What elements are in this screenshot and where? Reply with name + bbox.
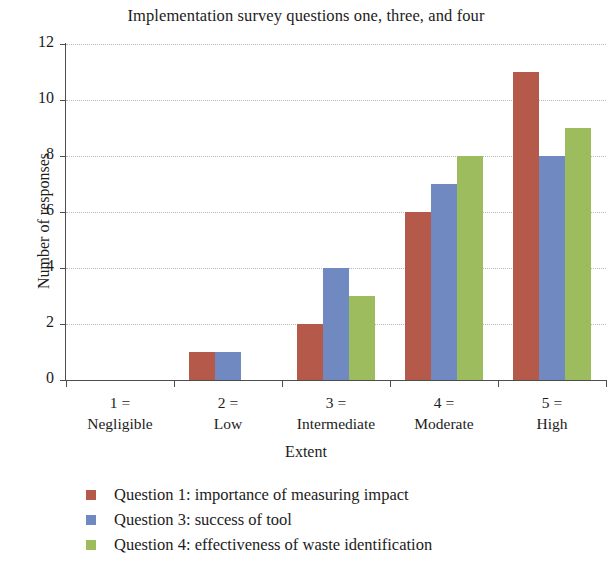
bar <box>457 156 483 380</box>
chart-legend: Question 1: importance of measuring impa… <box>86 482 606 557</box>
x-tick-label-code: 2 = <box>168 392 288 413</box>
plot-area <box>66 44 606 380</box>
y-tick-label: 6 <box>10 201 54 219</box>
y-tick-label: 10 <box>10 89 54 107</box>
legend-label: Question 1: importance of measuring impa… <box>114 482 409 507</box>
x-axis-title: Extent <box>0 443 612 461</box>
x-tick-label: 5 =High <box>492 392 612 434</box>
legend-swatch-icon <box>86 515 96 525</box>
x-tick-mark <box>606 380 607 387</box>
x-tick-label-code: 5 = <box>492 392 612 413</box>
bar <box>405 212 431 380</box>
x-tick-label: 1 =Negligible <box>60 392 180 434</box>
x-tick-label-word: Moderate <box>384 413 504 434</box>
y-tick-label: 0 <box>10 369 54 387</box>
bar <box>513 72 539 380</box>
bar <box>565 128 591 380</box>
x-tick-label-code: 3 = <box>276 392 396 413</box>
legend-item[interactable]: Question 3: success of tool <box>86 507 606 532</box>
x-tick-label-code: 1 = <box>60 392 180 413</box>
x-tick-label-word: High <box>492 413 612 434</box>
bar <box>215 352 241 380</box>
bar <box>539 156 565 380</box>
x-tick-label-word: Negligible <box>60 413 180 434</box>
legend-swatch-icon <box>86 540 96 550</box>
gridline <box>66 44 606 45</box>
y-tick-label: 8 <box>10 145 54 163</box>
y-axis-title: Number of responses <box>35 91 53 351</box>
bar <box>323 268 349 380</box>
bar <box>431 184 457 380</box>
chart-title: Implementation survey questions one, thr… <box>0 6 612 26</box>
legend-item[interactable]: Question 1: importance of measuring impa… <box>86 482 606 507</box>
bar <box>297 324 323 380</box>
legend-label: Question 3: success of tool <box>114 507 292 532</box>
legend-swatch-icon <box>86 490 96 500</box>
legend-label: Question 4: effectiveness of waste ident… <box>114 532 432 557</box>
y-tick-label: 2 <box>10 313 54 331</box>
y-tick-label: 4 <box>10 257 54 275</box>
x-tick-mark <box>66 380 67 387</box>
x-tick-label: 3 =Intermediate <box>276 392 396 434</box>
x-tick-mark <box>390 380 391 387</box>
bar-chart-figure: Implementation survey questions one, thr… <box>0 0 612 561</box>
x-tick-label: 2 =Low <box>168 392 288 434</box>
legend-item[interactable]: Question 4: effectiveness of waste ident… <box>86 532 606 557</box>
bar <box>189 352 215 380</box>
x-tick-label-code: 4 = <box>384 392 504 413</box>
x-tick-mark <box>174 380 175 387</box>
x-tick-label-word: Low <box>168 413 288 434</box>
x-tick-label: 4 =Moderate <box>384 392 504 434</box>
bar <box>349 296 375 380</box>
x-axis-line <box>65 380 607 381</box>
x-tick-mark <box>498 380 499 387</box>
x-tick-mark <box>282 380 283 387</box>
x-tick-label-word: Intermediate <box>276 413 396 434</box>
y-tick-label: 12 <box>10 33 54 51</box>
